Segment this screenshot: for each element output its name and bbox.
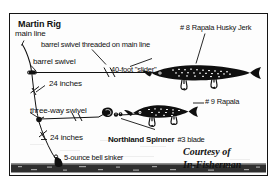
- courtesy-credit: Courtesy of In-Fisherman: [183, 146, 241, 171]
- spinner-brand-text: Northland Spinner: [108, 135, 174, 144]
- label-main-line: main line: [15, 30, 46, 38]
- credit-line-2: In-Fisherman: [183, 159, 241, 172]
- credit-line-1: Courtesy of: [183, 146, 241, 159]
- label-leader-24-inches-lower: 24 inches: [50, 134, 83, 142]
- label-slider-40-foot: 40-foot "slider": [111, 66, 156, 74]
- spinner-blade-text: #3 blade: [174, 135, 204, 144]
- label-northland-spinner: Northland Spinner#3 blade: [108, 129, 205, 146]
- label-three-way-swivel: three-way swivel: [30, 107, 87, 115]
- diagram-canvas: Martin Rig main line barrel swivel threa…: [0, 0, 277, 187]
- label-bell-sinker: 5-ounce bell sinker: [64, 154, 123, 162]
- label-leader-24-inches-upper: 24 inches: [49, 80, 82, 88]
- label-barrel-swivel: barrel swivel: [33, 58, 76, 66]
- label-rapala-9: # 9 Rapala: [205, 98, 239, 106]
- label-barrel-swivel-threaded: barrel swivel threaded on main line: [41, 41, 150, 49]
- label-husky-jerk: # 8 Rapala Husky Jerk: [180, 24, 251, 32]
